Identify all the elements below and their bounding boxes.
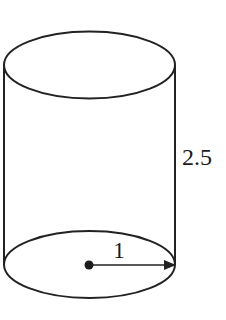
top-base-ellipse	[4, 32, 175, 99]
height-label: 2.5	[182, 144, 212, 170]
cylinder-diagram: 1 2.5	[0, 0, 226, 320]
radius-label: 1	[113, 238, 125, 263]
